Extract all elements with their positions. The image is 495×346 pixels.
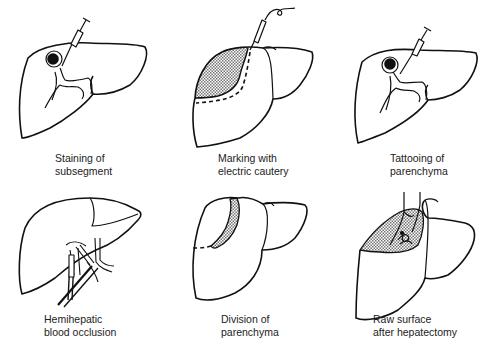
caption-occlusion: Hemihepatic blood occlusion [44, 313, 116, 338]
caption-line: Hemihepatic [44, 313, 116, 326]
panel-marking [193, 8, 313, 147]
caption-line: Marking with [218, 152, 289, 165]
tumor-icon [385, 59, 395, 69]
liver-icon [193, 197, 307, 300]
transection-plane-icon [211, 198, 239, 248]
cautery-probe-icon [250, 8, 295, 50]
caption-line: Division of [221, 313, 279, 326]
caption-line: parenchyma [221, 326, 279, 339]
caption-line: after hepatectomy [373, 326, 457, 339]
panel-occlusion [19, 198, 141, 307]
caption-line: electric cautery [218, 165, 289, 178]
tumor-icon [48, 54, 58, 64]
caption-staining: Staining of subsegment [55, 152, 112, 177]
panel-tattooing [355, 27, 477, 143]
caption-tattooing: Tattooing of parenchyma [390, 152, 448, 177]
caption-line: parenchyma [390, 165, 448, 178]
caption-division: Division of parenchyma [221, 313, 279, 338]
caption-raw-surface: Raw surface after hepatectomy [373, 313, 457, 338]
portal-vein-icon [380, 72, 427, 113]
caption-line: Tattooing of [390, 152, 448, 165]
panel-division [192, 197, 307, 300]
liver-surgery-figure: Staining of subsegment Marking with elec… [0, 0, 495, 346]
syringe-icon [62, 18, 90, 66]
liver-icon [355, 49, 477, 143]
caption-line: Staining of [55, 152, 112, 165]
caption-line: blood occlusion [44, 326, 116, 339]
caption-line: Raw surface [373, 313, 457, 326]
panel-raw-surface [356, 192, 475, 320]
caption-line: subsegment [55, 165, 112, 178]
caption-marking: Marking with electric cautery [218, 152, 289, 177]
panel-staining [20, 18, 147, 138]
